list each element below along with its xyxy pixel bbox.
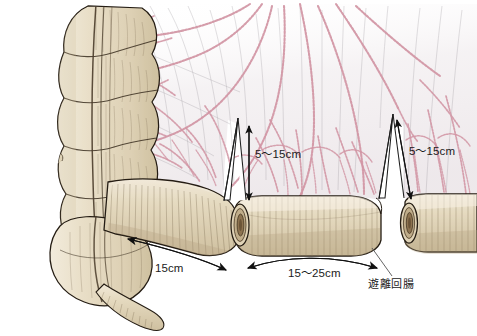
cut-end-distal-right <box>401 203 418 243</box>
distal-ileum-stump <box>401 194 477 256</box>
label-free-ileum: 遊離回腸 <box>368 279 414 290</box>
ileal-graft-segment <box>231 196 382 258</box>
illustration-canvas: 5～15cm 5～15cm 15cm 15～25cm 遊離回腸 <box>0 0 477 336</box>
label-colon-to-resection: 15cm <box>155 263 184 275</box>
label-mesentery-depth-left: 5～15cm <box>255 149 301 161</box>
label-mesentery-depth-right: 5～15cm <box>409 146 455 158</box>
label-segment-length: 15～25cm <box>288 268 341 280</box>
label-leader-line <box>372 248 392 276</box>
cut-end-proximal <box>231 204 249 246</box>
